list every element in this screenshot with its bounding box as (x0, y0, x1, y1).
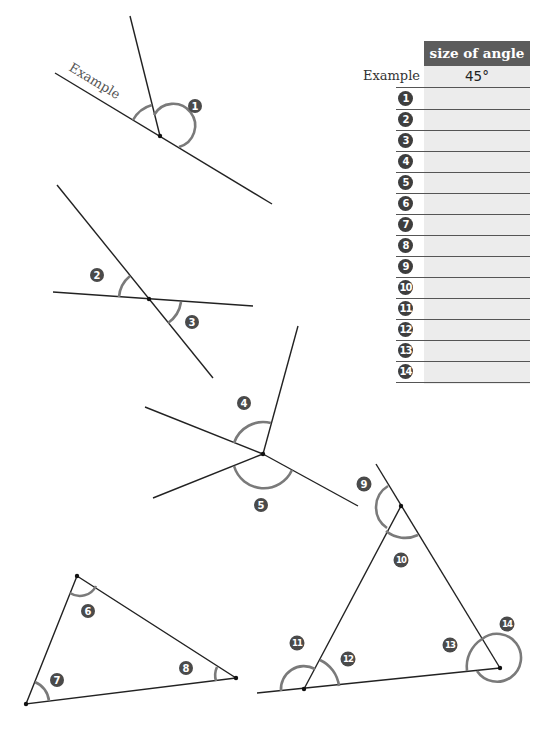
angle-9-arc (376, 486, 388, 528)
svg-text:10: 10 (396, 555, 407, 565)
svg-text:1: 1 (192, 101, 199, 112)
svg-text:7: 7 (54, 675, 61, 686)
table-row: 10 (396, 277, 530, 299)
table-row: 1 (396, 88, 530, 110)
badge-angle-3: 3 (185, 315, 199, 329)
badge-angle-14: 14 (500, 617, 515, 632)
row-number-badge: 12 (398, 322, 413, 337)
vertex-dot (302, 687, 306, 691)
svg-text:11: 11 (292, 638, 303, 648)
vertex-dot (24, 702, 28, 706)
svg-text:13: 13 (445, 640, 456, 650)
example-label: Example (66, 60, 123, 102)
vertex-dot (158, 134, 162, 138)
row-number-badge: 9 (398, 259, 413, 274)
ray-left-lower (153, 454, 263, 498)
row-number-badge: 6 (398, 196, 413, 211)
line-b (57, 185, 213, 378)
badge-angle-2: 2 (90, 268, 104, 282)
svg-text:12: 12 (343, 654, 354, 664)
row-number-badge: 10 (398, 280, 413, 295)
row-number-badge: 14 (398, 364, 413, 379)
angle-5-arc (234, 466, 292, 488)
angle-6-arc (70, 586, 96, 596)
svg-text:4: 4 (241, 398, 248, 409)
triangle-angles-9-to-14: 9 10 11 12 13 14 (257, 464, 521, 693)
table-row: 6 (396, 193, 530, 215)
vertex-dot (234, 676, 238, 680)
table-row: 14 (396, 361, 530, 383)
badge-angle-6: 6 (81, 604, 95, 618)
svg-text:8: 8 (183, 663, 190, 674)
vertex-dot (261, 452, 265, 456)
table-row: 5 (396, 172, 530, 194)
triangle-angles-6-7-8: 6 7 8 (24, 574, 238, 706)
table-row: 8 (396, 235, 530, 257)
table-row: 4 (396, 151, 530, 173)
figure-example-and-angle-1: Example 1 (55, 16, 272, 204)
badge-angle-5: 5 (254, 498, 268, 512)
badge-angle-9: 9 (357, 477, 372, 492)
svg-text:3: 3 (189, 317, 196, 328)
angle-3-arc (168, 302, 181, 323)
figure-angles-4-5: 4 5 (145, 326, 358, 512)
vertex-dot (147, 297, 151, 301)
angle-13-arc (467, 639, 482, 671)
table-row: 9 (396, 256, 530, 278)
angle-10-arc (386, 531, 418, 538)
svg-text:5: 5 (258, 500, 265, 511)
badge-angle-8: 8 (179, 661, 193, 675)
base-extended (257, 668, 500, 693)
row-number-badge: 1 (398, 91, 413, 106)
row-label: Example (360, 66, 420, 86)
vertex-dot (75, 574, 79, 578)
svg-text:14: 14 (502, 619, 513, 629)
table-row: 7 (396, 214, 530, 236)
badge-angle-1: 1 (188, 99, 202, 113)
svg-text:6: 6 (85, 606, 92, 617)
angle-1-arc (154, 104, 195, 147)
table-row: 11 (396, 298, 530, 320)
badge-angle-11: 11 (290, 636, 305, 651)
ray-right-lower (263, 454, 358, 506)
angle-7-arc (35, 682, 49, 701)
ray-left-upper (145, 407, 263, 454)
table-row: 2 (396, 109, 530, 131)
baseline-line (55, 73, 272, 204)
row-number-badge: 3 (398, 133, 413, 148)
angle-8-arc (215, 667, 217, 681)
row-number-badge: 4 (398, 154, 413, 169)
table-header: size of angle (424, 41, 530, 66)
svg-text:2: 2 (94, 270, 101, 281)
svg-text:9: 9 (361, 479, 368, 490)
vertex-dot (498, 666, 502, 670)
example-angle-arc (133, 105, 152, 120)
badge-angle-7: 7 (50, 673, 64, 687)
row-number-badge: 13 (398, 343, 413, 358)
angle-12-arc (320, 660, 339, 686)
row-number-badge: 11 (398, 301, 413, 316)
badge-angle-13: 13 (443, 638, 458, 653)
badge-angle-10: 10 (394, 553, 409, 568)
table-row: 3 (396, 130, 530, 152)
row-number-badge: 5 (398, 175, 413, 190)
angle-2-arc (119, 276, 130, 297)
row-number-badge: 2 (398, 112, 413, 127)
row-number-badge: 7 (398, 217, 413, 232)
table-row: 12 (396, 319, 530, 341)
right-side-extended (376, 464, 500, 668)
ray-up (263, 326, 298, 454)
table-row-example: Example 45° (396, 66, 530, 88)
figure-angles-2-3: 2 3 (53, 185, 253, 378)
badge-angle-12: 12 (341, 652, 356, 667)
answer-field: 45° (424, 66, 530, 86)
angle-4-arc (234, 422, 271, 443)
row-number-badge: 8 (398, 238, 413, 253)
badge-angle-4: 4 (237, 396, 251, 410)
vertex-dot (399, 504, 403, 508)
table-row: 13 (396, 340, 530, 362)
